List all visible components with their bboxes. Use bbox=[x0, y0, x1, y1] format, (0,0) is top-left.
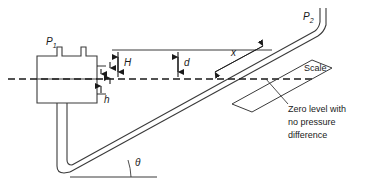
pressure-p2-label: P2 bbox=[303, 11, 314, 26]
zero-level-callout-line-2: no pressure bbox=[288, 116, 346, 129]
dimension-d-label: d bbox=[184, 57, 190, 70]
scale-label: Scale bbox=[304, 63, 327, 74]
vertical-tube bbox=[57, 103, 67, 166]
zero-level-leader-line bbox=[266, 79, 288, 104]
dimension-h-label: h bbox=[104, 94, 110, 107]
pressure-p1-label: P1 bbox=[46, 36, 57, 51]
diagram-canvas bbox=[0, 0, 368, 192]
zero-level-callout-line-1: Zero level with bbox=[288, 103, 346, 116]
tube-bottom-bend bbox=[57, 160, 72, 173]
dimension-h bbox=[97, 66, 106, 94]
angle-theta-label: θ bbox=[135, 157, 140, 170]
reservoir-body bbox=[37, 47, 97, 103]
dimension-x-label: x bbox=[231, 47, 236, 60]
zero-level-callout: Zero level with no pressure difference bbox=[288, 103, 346, 142]
zero-level-callout-line-3: difference bbox=[288, 129, 346, 142]
p2-riser-tube bbox=[315, 8, 326, 36]
angle-theta-arc bbox=[128, 160, 131, 177]
manometer-diagram: P1 P2 H d h x θ Scale Zero level with no… bbox=[0, 0, 368, 192]
dimension-H-label: H bbox=[124, 57, 131, 70]
